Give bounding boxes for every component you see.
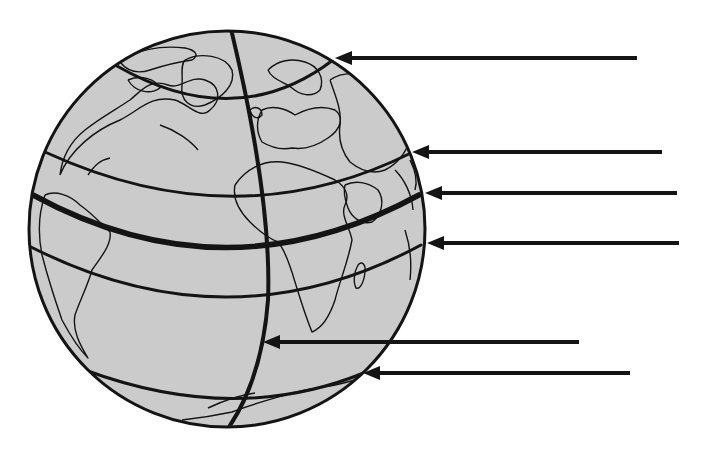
arrowhead-icon xyxy=(427,236,444,250)
arrowhead-icon xyxy=(425,186,442,200)
arrow-1-pointer-arctic-circle xyxy=(335,51,637,65)
arrowhead-icon xyxy=(412,145,429,159)
arrowhead-icon xyxy=(335,51,352,65)
arrow-3-pointer-equator xyxy=(425,186,677,200)
arrow-2-pointer-tropic-of-cancer xyxy=(412,145,662,159)
arrow-6-pointer-antarctic-circle xyxy=(363,366,630,380)
globe-diagram xyxy=(0,0,708,460)
globe-diagram-canvas xyxy=(0,0,708,460)
arrow-4-pointer-tropic-of-capricorn xyxy=(427,236,679,250)
